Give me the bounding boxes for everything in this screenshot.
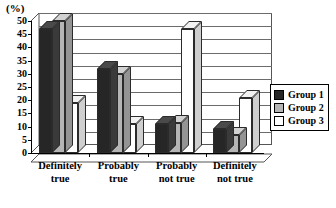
legend-swatch-icon <box>274 103 284 113</box>
y-axis-tick-label: 30 <box>17 69 27 79</box>
y-axis-tick-mark <box>28 87 31 88</box>
bar-front-face <box>39 29 52 153</box>
legend-swatch-icon <box>274 90 284 100</box>
legend-swatch-icon <box>274 116 284 126</box>
y-axis-tick-label: 10 <box>17 122 27 132</box>
y-axis-tick-mark <box>28 140 31 141</box>
y-axis-tick-mark <box>28 127 31 128</box>
x-axis-tick-mark <box>206 153 207 157</box>
y-axis-line <box>31 21 32 153</box>
bar-front-face <box>213 129 226 153</box>
legend-item-2: Group 2 <box>274 101 324 114</box>
bar-front-face <box>97 69 110 153</box>
bar-side-face <box>194 21 202 153</box>
plot-area: 05101520253035404550 <box>31 21 264 153</box>
y-axis-tick-label: 5 <box>22 135 27 145</box>
y-axis-tick-label: 40 <box>17 42 27 52</box>
bar-chart: (%) 05101520253035404550 Definitely true… <box>0 0 336 208</box>
y-axis-tick-mark <box>28 34 31 35</box>
bar-group <box>213 21 252 153</box>
bar-front-face <box>155 124 168 153</box>
bar-1-cat-1 <box>39 29 52 153</box>
legend-item-1: Group 1 <box>274 88 324 101</box>
y-axis-tick-label: 35 <box>17 56 27 66</box>
legend-label: Group 2 <box>288 103 324 113</box>
x-axis-tick-mark <box>89 153 90 157</box>
y-axis-tick-mark <box>28 100 31 101</box>
legend-label: Group 3 <box>288 116 324 126</box>
bar-side-face <box>110 61 118 153</box>
legend-item-3: Group 3 <box>274 114 324 127</box>
bar-group <box>97 21 136 153</box>
y-axis-tick-mark <box>28 21 31 22</box>
y-axis-tick-mark <box>28 113 31 114</box>
legend-label: Group 1 <box>288 90 324 100</box>
bar-1-cat-2 <box>97 69 110 153</box>
bar-group <box>39 21 78 153</box>
y-axis-tick-label: 20 <box>17 95 27 105</box>
bar-side-face <box>65 13 73 153</box>
y-axis-tick-label: 25 <box>17 82 27 92</box>
y-axis-unit-label: (%) <box>6 2 24 14</box>
x-axis-label-4: Definitely not true <box>195 160 275 185</box>
y-axis-tick-mark <box>28 74 31 75</box>
bar-1-cat-3 <box>155 124 168 153</box>
y-axis-tick-mark <box>28 61 31 62</box>
y-axis-tick-label: 0 <box>22 148 27 158</box>
bar-1-cat-4 <box>213 129 226 153</box>
y-axis-tick-label: 45 <box>17 29 27 39</box>
gridline <box>39 13 272 14</box>
y-axis-tick-label: 15 <box>17 108 27 118</box>
y-axis-tick-mark <box>28 153 31 154</box>
y-axis-tick-label: 50 <box>17 16 27 26</box>
bar-group <box>155 21 194 153</box>
x-axis-tick-mark <box>148 153 149 157</box>
chart-legend: Group 1Group 2Group 3 <box>270 84 329 131</box>
bar-side-face <box>78 95 86 153</box>
y-axis-tick-mark <box>28 47 31 48</box>
bar-side-face <box>123 66 131 153</box>
bar-side-face <box>252 90 260 153</box>
bar-side-face <box>52 21 60 153</box>
